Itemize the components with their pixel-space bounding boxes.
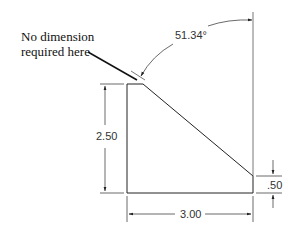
- angle-arc-right: [208, 20, 252, 26]
- angle-dimension: 51.34°: [175, 29, 207, 41]
- small-height-dimension-text: .50: [267, 179, 282, 191]
- angle-arc-left: [141, 44, 173, 76]
- note-leader: [88, 52, 137, 80]
- note-text: No dimension required here: [21, 29, 98, 59]
- width-dimension-text: 3.00: [180, 208, 201, 220]
- technical-drawing: No dimension required here 51.34° 2.50 3…: [0, 0, 300, 242]
- sloped-edge: [143, 84, 253, 176]
- height-dimension-text: 2.50: [96, 130, 117, 142]
- part-outline: [127, 84, 253, 193]
